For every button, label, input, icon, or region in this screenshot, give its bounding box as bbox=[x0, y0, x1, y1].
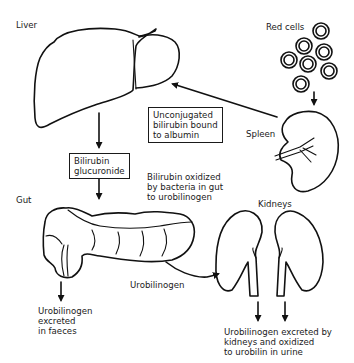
faeces-note: Urobilinogen excreted in faeces bbox=[38, 306, 92, 336]
unconjugated-bilirubin-box: Unconjugated bilirubin bound to albumin bbox=[148, 107, 223, 143]
bilirubin-metabolism-diagram: Liver Red cells Spleen Gut Kidneys Uncon… bbox=[0, 0, 354, 363]
red-cells-illustration bbox=[281, 23, 337, 92]
liver-label: Liver bbox=[16, 20, 37, 30]
kidneys-label: Kidneys bbox=[258, 199, 292, 209]
spleen-illustration bbox=[275, 111, 338, 191]
bilirubin-glucuronide-box: Bilirubin glucuronide bbox=[69, 153, 130, 179]
arrow-gut-to-kidneys bbox=[166, 262, 218, 277]
gut-illustration bbox=[43, 208, 194, 278]
spleen-label: Spleen bbox=[246, 129, 275, 139]
kidneys-illustration bbox=[216, 211, 323, 296]
gut-label: Gut bbox=[16, 195, 31, 205]
urobilinogen-label: Urobilinogen bbox=[130, 280, 184, 290]
urine-note: Urobilinogen excreted by kidneys and oxi… bbox=[224, 327, 332, 357]
red-cells-label: Red cells bbox=[266, 22, 304, 32]
oxidized-note: Bilirubin oxidized by bacteria in gut to… bbox=[147, 172, 223, 202]
